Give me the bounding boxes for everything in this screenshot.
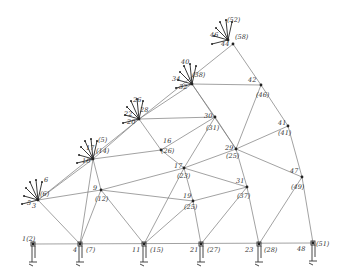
truss-node: [37, 199, 40, 202]
node-label: 48: [296, 245, 305, 253]
node-label: 16: [163, 137, 171, 145]
node-label: 32: [179, 83, 187, 91]
node-label: (12): [95, 195, 109, 203]
node-label: 10: [82, 157, 90, 165]
element-label: (5): [98, 136, 108, 144]
element-label: 40: [180, 58, 189, 66]
node-label: 31: [236, 177, 244, 185]
truss-node: [287, 125, 290, 128]
node-label: 29: [224, 144, 233, 152]
truss-node: [301, 176, 304, 179]
truss-member: [80, 159, 93, 244]
truss-node: [32, 243, 35, 246]
truss-node: [214, 116, 217, 119]
truss-member: [33, 243, 313, 244]
node-label: (15): [150, 246, 164, 254]
truss-node: [235, 148, 238, 151]
node-label: (31): [206, 124, 220, 132]
node-label: (49): [291, 183, 305, 191]
truss-node: [192, 200, 195, 203]
node-label: 3: [32, 202, 36, 210]
node-label: (26): [161, 147, 175, 155]
truss-mesh-canvas: 1(2)4(7)11(15)21(27)23(28)48(51)3(6)9(12…: [0, 0, 343, 271]
element-label: (52): [227, 16, 241, 24]
truss-member: [192, 84, 261, 85]
node-label: 46: [209, 31, 218, 39]
node-label: 4: [72, 246, 77, 254]
truss-node: [246, 186, 249, 189]
truss-node: [260, 84, 263, 87]
truss-member: [101, 168, 184, 190]
truss-member: [233, 44, 261, 85]
element-label: 22: [123, 110, 132, 118]
truss-node: [138, 118, 141, 121]
element-label: 6: [44, 176, 48, 184]
truss-node: [79, 243, 82, 246]
truss-members: [33, 44, 313, 244]
node-label: 44: [220, 40, 229, 48]
node-label: (38): [192, 71, 206, 79]
node-label: (14): [96, 147, 110, 155]
node-label: (6): [40, 190, 50, 198]
node-label: 47: [289, 167, 299, 175]
truss-member: [101, 190, 193, 201]
support-icon: [255, 242, 263, 266]
support-icon: [29, 242, 37, 266]
node-label: (28): [264, 246, 278, 254]
node-label: 30: [204, 112, 212, 120]
node-label: 21: [189, 246, 198, 254]
truss-nodes: [32, 39, 315, 246]
node-label: (23): [177, 172, 191, 180]
node-label: 19: [183, 192, 191, 200]
node-label: 17: [174, 162, 183, 170]
element-label: 17: [86, 144, 95, 152]
node-label: (46): [256, 91, 270, 99]
node-label: 11: [132, 246, 140, 254]
truss-node: [183, 167, 186, 170]
support-icon: [76, 242, 84, 266]
node-label: 20: [126, 118, 135, 126]
node-label: (37): [237, 192, 251, 200]
node-label: 42: [247, 76, 256, 84]
element-label: 34: [172, 75, 180, 83]
truss-node: [232, 43, 235, 46]
truss-node: [258, 243, 261, 246]
node-label: (41): [278, 129, 292, 137]
node-label: (25): [184, 203, 198, 211]
node-label: 28: [139, 106, 148, 114]
element-label: 26: [132, 96, 141, 104]
truss-member: [161, 117, 215, 150]
node-label: (27): [207, 246, 221, 254]
node-label: (51): [316, 240, 330, 248]
truss-member: [139, 119, 161, 150]
truss-node: [92, 158, 95, 161]
truss-node: [100, 189, 103, 192]
element-label: 5: [27, 199, 31, 207]
node-label: (25): [226, 152, 240, 160]
truss-member: [38, 200, 80, 244]
node-label: 9: [93, 184, 97, 192]
node-labels: 1(2)4(7)11(15)21(27)23(28)48(51)3(6)9(12…: [22, 16, 330, 254]
node-label: 1(2): [22, 235, 36, 243]
support-icon: [140, 242, 148, 266]
truss-node: [200, 243, 203, 246]
node-label: 41: [277, 119, 286, 127]
node-label: 23: [244, 246, 253, 254]
node-label: (58): [235, 33, 249, 41]
node-label: (7): [86, 246, 96, 254]
truss-diagram: 1(2)4(7)11(15)21(27)23(28)48(51)3(6)9(12…: [0, 0, 343, 271]
truss-node: [143, 243, 146, 246]
truss-node: [312, 242, 315, 245]
truss-node: [191, 83, 194, 86]
